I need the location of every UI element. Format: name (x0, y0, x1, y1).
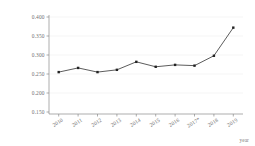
x-tick-label: 2017* (186, 116, 201, 129)
x-tick-label: 2015 (148, 117, 161, 128)
y-tick-label: 0.150 (32, 109, 45, 115)
data-point-marker (96, 71, 98, 73)
data-point-marker (213, 55, 215, 57)
data-point-marker (58, 71, 60, 73)
data-point-marker (155, 66, 157, 68)
data-point-marker (232, 26, 234, 28)
chart-figure: overall differences year 0.4000.3500.300… (0, 0, 255, 146)
data-point-markers-group (58, 26, 235, 73)
data-point-marker (193, 64, 195, 66)
x-tick-label: 2013 (110, 117, 123, 128)
x-tick-label: 2018 (207, 117, 220, 128)
y-tick-label: 0.400 (32, 14, 45, 20)
x-tick-label: 2019 (226, 117, 239, 128)
y-axis-ticks-group: 0.4000.3500.3000.2500.2000.150 (32, 14, 49, 115)
x-tick-label: 2016 (168, 117, 181, 128)
data-point-marker (135, 61, 137, 63)
x-tick-label: 2014 (129, 117, 142, 128)
line-chart-plot: 0.4000.3500.3000.2500.2000.150 201020112… (0, 0, 255, 146)
x-tick-label: 2010 (51, 117, 64, 128)
data-point-marker (77, 67, 79, 69)
y-tick-label: 0.350 (32, 33, 45, 39)
data-point-marker (174, 64, 176, 66)
y-tick-label: 0.250 (32, 71, 45, 77)
data-series-line (59, 28, 234, 72)
y-tick-label: 0.300 (32, 52, 45, 58)
y-tick-label: 0.200 (32, 90, 45, 96)
x-tick-label: 2011 (71, 117, 84, 128)
data-point-marker (116, 69, 118, 71)
x-tick-label: 2012 (90, 117, 103, 128)
x-axis-ticks-group: 20102011201220132014201520162017*2018201… (51, 114, 238, 129)
